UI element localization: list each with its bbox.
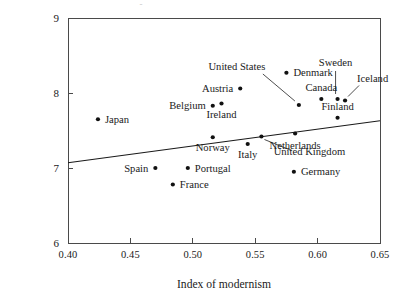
point-label-canada: Canada (305, 82, 337, 93)
data-point-united-states (297, 103, 301, 107)
data-point-japan (96, 117, 100, 121)
point-label-sweden: Sweden (319, 57, 353, 68)
data-point-france (171, 182, 175, 186)
point-label-finland: Finland (321, 101, 354, 112)
point-label-japan: Japan (105, 114, 130, 125)
point-label-norway: Norway (196, 142, 231, 153)
data-point-austria (238, 86, 242, 90)
point-label-italy: Italy (238, 149, 258, 160)
data-point-belgium (211, 104, 215, 108)
leader-line-iceland (348, 86, 359, 97)
x-axis-title: Index of modernism (177, 278, 271, 291)
data-point-portugal (186, 166, 190, 170)
chart-canvas: - 0.400.450.500.550.600.656789 JapanBelg… (0, 0, 397, 298)
point-label-iceland: Iceland (357, 73, 389, 84)
data-point-united-kingdom (259, 134, 263, 138)
axis-spines (68, 18, 380, 243)
y-tick-label-8: 8 (54, 87, 60, 99)
point-label-spain: Spain (124, 163, 149, 174)
axis-tick-labels: 0.400.450.500.550.600.656789 (54, 12, 390, 260)
point-label-france: France (180, 179, 209, 190)
data-point-labels: JapanBelgiumSpainPortugalFranceAustriaIr… (105, 57, 389, 190)
data-point-denmark (284, 71, 288, 75)
top-ghost-mark: - (140, 0, 143, 9)
point-label-germany: Germany (301, 166, 341, 177)
x-tick-label-0.50: 0.50 (183, 249, 202, 260)
y-tick-label-6: 6 (54, 237, 60, 249)
x-tick-label-0.65: 0.65 (371, 249, 390, 260)
axis-ticks (68, 18, 380, 243)
point-label-austria: Austria (202, 83, 233, 94)
data-point-norway (211, 135, 215, 139)
x-tick-label-0.60: 0.60 (308, 249, 327, 260)
y-tick-label-7: 7 (54, 162, 60, 174)
data-point-spain (153, 166, 157, 170)
scatter-plot-figure: - 0.400.450.500.550.600.656789 JapanBelg… (0, 0, 397, 298)
y-tick-label-9: 9 (54, 12, 60, 24)
point-label-ireland: Ireland (207, 109, 238, 120)
top-ghost-label: - (140, 0, 143, 9)
point-label-denmark: Denmark (293, 67, 333, 78)
point-label-united-states: United States (208, 61, 265, 72)
point-label-belgium: Belgium (169, 100, 206, 111)
data-point-netherlands (293, 131, 297, 135)
plot-frame (68, 18, 380, 243)
leader-line-united-states (263, 74, 295, 101)
point-label-united-kingdom: United Kingdom (274, 146, 346, 157)
data-point-italy (246, 142, 250, 146)
x-tick-label-0.55: 0.55 (246, 249, 265, 260)
data-point-finland (335, 116, 339, 120)
data-point-germany (292, 170, 296, 174)
point-label-portugal: Portugal (195, 163, 231, 174)
data-point-ireland (219, 101, 223, 105)
x-tick-label-0.40: 0.40 (59, 249, 78, 260)
x-tick-label-0.45: 0.45 (121, 249, 140, 260)
